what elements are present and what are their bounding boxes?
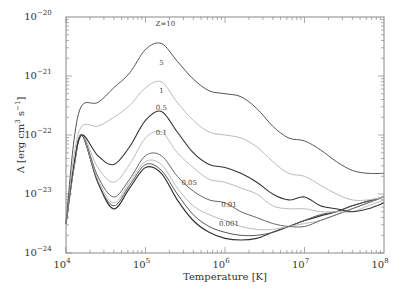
curve-label: 5 [159, 59, 163, 67]
y-axis-title-mid: s [15, 111, 26, 119]
x-tick-label: 106 [212, 257, 230, 270]
x-tick-label: 105 [133, 257, 150, 270]
curve-label: 0.5 [156, 104, 167, 112]
curve-label: Z=10 [156, 20, 176, 28]
x-tick-labels: 104105106107108 [53, 257, 388, 270]
y-tick-label: 10−24 [24, 245, 52, 258]
y-tick-label: 10−22 [24, 127, 52, 140]
curve-z-05 [66, 131, 384, 223]
y-tick-label: 10−20 [24, 9, 52, 22]
curve-label: 0.1 [156, 129, 167, 137]
x-axis-title: Temperature [K] [183, 271, 267, 282]
y-tick-labels: 10−2010−2110−2210−2310−24 [24, 9, 52, 258]
y-tick-label: 10−23 [24, 186, 52, 199]
curve-z-01 [66, 135, 384, 227]
curve-z-Z10 [66, 43, 384, 224]
curve-label: 0.05 [181, 179, 197, 187]
curve-label: 0.01 [221, 201, 237, 209]
y-tick-label: 10−21 [24, 68, 52, 81]
x-tick-label: 108 [371, 257, 388, 270]
curve-label: 1 [159, 87, 163, 95]
x-tick-label: 104 [53, 257, 71, 270]
cooling-function-chart: 0.0010.010.050.10.515Z=10 10410510610710… [0, 0, 403, 297]
curve-label: 0.001 [219, 220, 239, 228]
y-axis-title: Λ [erg cm3 s−1] [14, 97, 26, 175]
curves [66, 43, 384, 240]
x-tick-label: 107 [292, 257, 309, 270]
y-axis-title-suffix: ] [15, 97, 26, 101]
y-axis-title-exp2: −1 [14, 101, 22, 111]
y-axis-title-prefix: Λ [erg cm [15, 123, 26, 174]
